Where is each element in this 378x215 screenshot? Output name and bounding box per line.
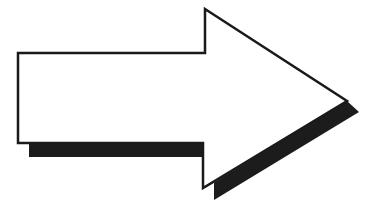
right-arrow-icon	[18, 9, 347, 188]
arrow-diagram	[0, 0, 378, 215]
